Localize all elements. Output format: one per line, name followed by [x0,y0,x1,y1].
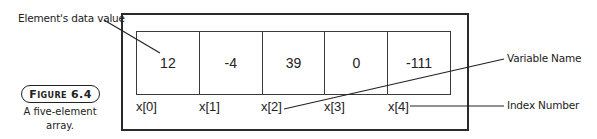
array-cell-2: 39 [263,32,326,94]
figure-badge: Figure 6.4 [21,85,100,103]
array-cell-0: 12 [137,32,200,94]
figure-caption: A five-element array. [14,105,106,133]
index-label-0: x[0] [136,99,157,114]
callout-variable-name: Variable Name [507,52,581,64]
index-label-1: x[1] [199,99,220,114]
index-label-4: x[4] [388,99,409,114]
array-cell-4: -111 [388,32,450,94]
callout-index-number: Index Number [507,99,579,111]
index-label-2: x[2] [261,99,282,114]
figure-badge-label: Figure 6.4 [29,88,92,101]
array-cells: 12 -4 39 0 -111 [136,31,451,95]
array-cell-3: 0 [325,32,388,94]
callout-data-value: Element's data value [18,12,125,24]
index-label-3: x[3] [324,99,345,114]
array-cell-1: -4 [200,32,263,94]
